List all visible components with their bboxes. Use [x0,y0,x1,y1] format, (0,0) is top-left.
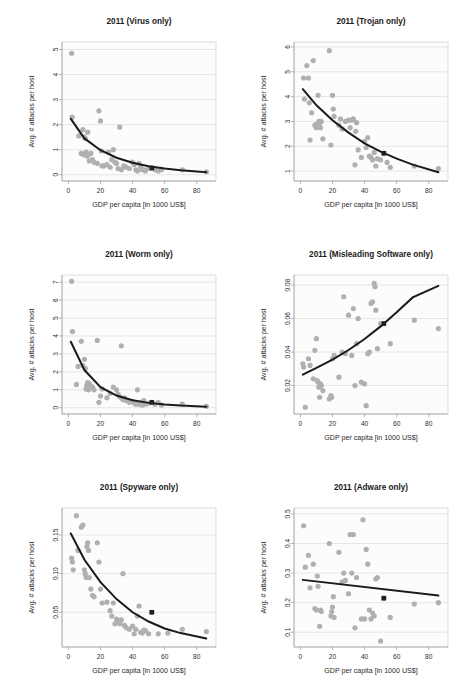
y-axis-label: Avg. # attacks per host [28,541,36,613]
data-point [88,586,93,591]
y-tick-label: 3 [52,97,59,101]
data-point [356,316,361,321]
data-point [301,365,306,370]
data-point [109,614,114,619]
y-tick-label: 0.08 [284,278,291,291]
data-point [108,608,113,613]
data-point [330,93,335,98]
y-tick-label: 0.1 [284,627,291,636]
data-point [119,343,124,348]
data-point [119,617,124,622]
data-point [370,157,375,162]
data-point [114,161,119,166]
x-tick-label: 60 [161,420,169,427]
x-tick-label: 0 [299,653,303,660]
x-tick-label: 0 [67,187,71,194]
y-tick-label: 0.15 [52,528,59,541]
data-point [436,166,441,171]
data-point [384,160,389,165]
y-axis-label: Avg. # attacks per host [260,541,268,613]
data-point [71,567,76,572]
data-point [329,609,334,614]
chart-panel-trojan: 2011 (Trojan only)020406080123456GDP per… [232,0,465,233]
data-point [370,299,375,304]
data-point [412,318,417,323]
y-tick-label: 0.4 [284,539,291,548]
data-point [95,540,100,545]
y-tick-label: 2 [284,144,291,148]
data-point [346,313,351,318]
data-point [388,341,393,346]
data-point [311,562,316,567]
data-point [69,279,74,284]
data-point [351,306,356,311]
x-tick-label: 20 [97,653,105,660]
x-tick-label: 80 [193,420,201,427]
x-tick-label: 80 [193,653,201,660]
x-tick-label: 40 [129,653,137,660]
data-point [307,137,312,142]
y-axis-label: Avg. # attacks per host [260,308,268,380]
y-tick-label: 0.06 [284,312,291,325]
data-point [330,604,335,609]
data-point [364,403,369,408]
y-tick-label: 2 [52,122,59,126]
y-axis-label: Avg. # attacks per host [28,308,36,380]
data-point [306,356,311,361]
x-tick-label: 0 [67,420,71,427]
x-tick-label: 0 [67,653,71,660]
data-point [373,164,378,169]
data-point [360,517,365,522]
data-point [318,125,323,130]
y-tick-label: 4 [284,94,291,98]
data-point [304,63,309,68]
data-point [135,387,140,392]
data-point [85,130,90,135]
x-tick-label: 60 [161,187,169,194]
data-point [96,559,101,564]
data-point [108,165,113,170]
data-point [378,638,383,643]
y-tick-label: 0.3 [284,568,291,577]
data-point [352,625,357,630]
data-point [100,600,105,605]
x-tick-label: 80 [425,653,433,660]
y-tick-label: 0.02 [284,379,291,392]
x-axis-label: GDP per capita [in 1000 US$] [324,201,417,209]
data-point [362,616,367,621]
y-tick-label: 5 [284,70,291,74]
panel-title: 2011 (Spyware only) [100,483,179,492]
highlight-marker [150,400,155,405]
data-point [372,150,377,155]
data-point [364,547,369,552]
data-point [104,395,109,400]
x-tick-label: 20 [329,420,337,427]
data-point [146,631,151,636]
x-tick-label: 80 [425,187,433,194]
x-tick-label: 0 [299,420,303,427]
data-point [114,387,119,392]
data-point [74,513,79,518]
data-point [82,357,87,362]
data-point [365,562,370,567]
data-point [362,381,367,386]
x-axis-label: GDP per capita [in 1000 US$] [92,201,185,209]
x-tick-label: 40 [361,653,369,660]
y-tick-label: 0 [52,406,59,410]
data-point [351,532,356,537]
chart-panel-spyware: 2011 (Spyware only)0204060800.050.100.15… [0,466,232,698]
data-point [346,591,351,596]
panel-title: 2011 (Trojan only) [336,17,405,26]
data-point [353,129,358,134]
data-point [341,294,346,299]
y-tick-label: 0.04 [284,345,291,358]
panel-title: 2011 (Worm only) [105,250,173,259]
y-tick-label: 3 [52,352,59,356]
data-point [312,348,317,353]
data-point [88,151,93,156]
data-point [307,363,312,368]
data-point [301,75,306,80]
data-point [331,594,336,599]
plot-area [294,275,448,414]
data-point [352,162,357,167]
